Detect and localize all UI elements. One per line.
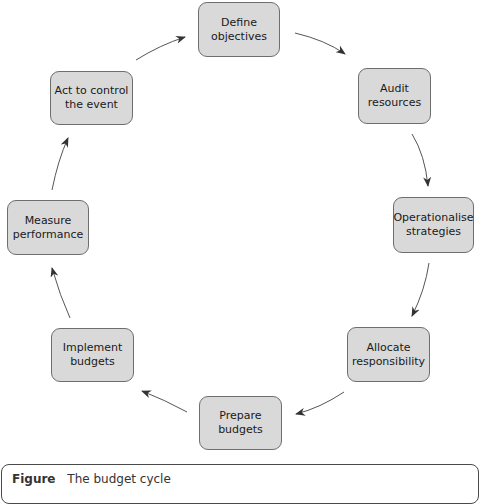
arrow-measure-to-act bbox=[52, 138, 68, 190]
caption-figure-label: Figure bbox=[12, 472, 56, 486]
arrow-prepare-to-implement bbox=[142, 391, 187, 412]
arrow-define-to-audit bbox=[295, 33, 345, 54]
node-operationalise-strategies: Operationalise strategies bbox=[393, 197, 474, 253]
caption-text: The budget cycle bbox=[67, 472, 171, 486]
node-label: Operationalise strategies bbox=[393, 211, 473, 239]
node-define-objectives: Define objectives bbox=[198, 2, 280, 57]
node-implement-budgets: Implement budgets bbox=[51, 328, 134, 382]
node-label: Allocate responsibility bbox=[351, 341, 426, 369]
node-label: Prepare budgets bbox=[203, 409, 278, 437]
node-allocate-responsibility: Allocate responsibility bbox=[347, 327, 430, 382]
node-label: Define objectives bbox=[202, 16, 276, 44]
node-label: Implement budgets bbox=[55, 341, 130, 369]
arrow-operationalise-to-allocate bbox=[412, 263, 429, 316]
node-label: Act to control the event bbox=[54, 84, 129, 112]
figure-caption: Figure The budget cycle bbox=[1, 464, 479, 504]
node-audit-resources: Audit resources bbox=[358, 68, 431, 124]
node-act-to-control: Act to control the event bbox=[50, 71, 133, 125]
node-measure-performance: Measure performance bbox=[7, 200, 89, 255]
node-prepare-budgets: Prepare budgets bbox=[199, 396, 282, 450]
arrow-allocate-to-prepare bbox=[296, 392, 344, 414]
node-label: Audit resources bbox=[362, 82, 427, 110]
node-label: Measure performance bbox=[11, 214, 85, 242]
arrow-implement-to-measure bbox=[52, 268, 70, 318]
arrow-act-to-define bbox=[136, 37, 185, 60]
arrow-audit-to-operationalise bbox=[412, 134, 428, 186]
